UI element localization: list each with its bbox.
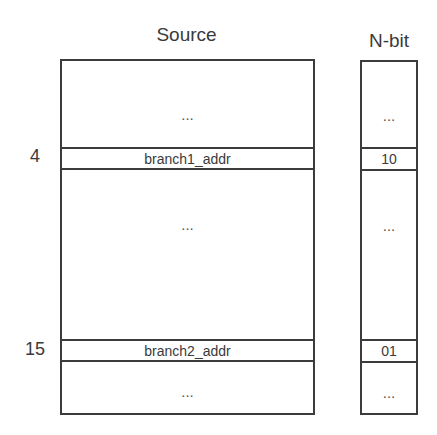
source-bottom-ellipsis: ... <box>62 383 313 400</box>
source-row-branch1: branch1_addr <box>62 147 313 170</box>
nbit-mid-ellipsis: ... <box>362 217 416 234</box>
source-row-branch2: branch2_addr <box>62 339 313 362</box>
nbit-row-1: 10 <box>362 147 416 171</box>
row-index-15: 15 <box>25 339 45 360</box>
row-index-4: 4 <box>30 146 40 167</box>
nbit-memory-box: ... 10 ... 01 ... <box>360 60 418 415</box>
source-row-label: branch1_addr <box>144 151 230 167</box>
nbit-row-value: 10 <box>381 151 397 167</box>
nbit-row-value: 01 <box>381 343 397 359</box>
source-title: Source <box>60 24 313 46</box>
nbit-bottom-ellipsis: ... <box>362 384 416 401</box>
nbit-title: N-bit <box>350 30 428 52</box>
source-memory-box: ... branch1_addr ... branch2_addr ... <box>60 59 315 415</box>
nbit-top-ellipsis: ... <box>362 107 416 124</box>
source-mid-ellipsis: ... <box>62 216 313 233</box>
source-row-label: branch2_addr <box>144 343 230 359</box>
source-top-ellipsis: ... <box>62 106 313 123</box>
nbit-row-2: 01 <box>362 339 416 363</box>
